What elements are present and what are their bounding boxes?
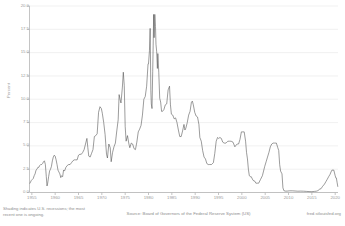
y-axis-tick-label: 10.0 (7, 97, 29, 101)
y-axis-tick-label: 12.5 (7, 74, 29, 78)
y-axis-tick-label: 15.0 (7, 50, 29, 54)
gridlines (27, 6, 338, 193)
y-axis-tick-label: 0.0 (7, 190, 29, 194)
y-axis-tick-label: 7.5 (7, 120, 29, 124)
x-axis-tick-label: 2005 (252, 196, 278, 200)
attribution-link[interactable]: fred.stlouisfed.org (307, 211, 341, 216)
y-axis-tick-label: 17.5 (7, 27, 29, 31)
x-axis-tick-label: 1995 (206, 196, 232, 200)
x-axis-tick-label: 2010 (276, 196, 302, 200)
y-axis-tick-label: 2.5 (7, 167, 29, 171)
plot-area (0, 0, 345, 226)
x-axis-tick-label: 1985 (159, 196, 185, 200)
x-axis-tick-label: 1965 (66, 196, 92, 200)
fred-chart: Percent 20.017.515.012.510.07.55.02.50.0… (0, 0, 345, 226)
y-axis-tick-label: 20.0 (7, 4, 29, 8)
x-axis-tick-label: 2015 (299, 196, 325, 200)
x-axis-tick-label: 1960 (42, 196, 68, 200)
recession-shading-note: Shading indicates U.S. recessions; the m… (3, 206, 121, 218)
x-axis-tick-label: 1955 (19, 196, 45, 200)
source-note: Source: Board of Governors of the Federa… (106, 211, 271, 216)
x-axis-tick-label: 2020 (322, 196, 345, 200)
x-axis-tick-label: 1975 (112, 196, 138, 200)
data-line-federal-funds-rate (30, 14, 338, 191)
recession-note-line-2: recent one is ongoing. (3, 212, 121, 218)
x-axis-tick-label: 2000 (229, 196, 255, 200)
y-axis-tick-labels: 20.017.515.012.510.07.55.02.50.0 (5, 0, 29, 226)
y-axis-tick-label: 5.0 (7, 143, 29, 147)
x-axis-tick-label: 1970 (89, 196, 115, 200)
x-axis-tick-label: 1980 (136, 196, 162, 200)
x-axis-tick-label: 1990 (182, 196, 208, 200)
